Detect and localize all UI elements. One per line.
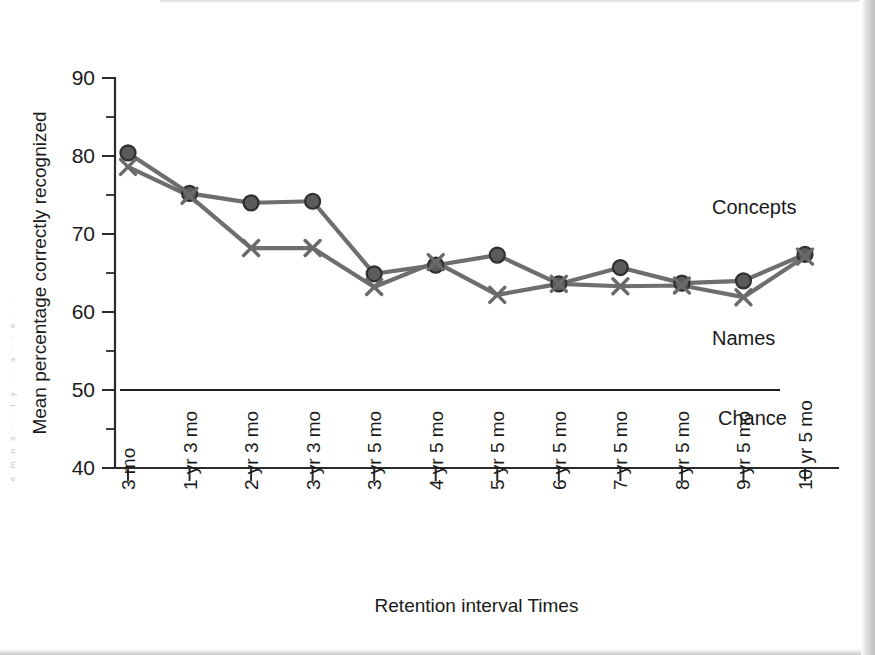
data-point-concepts xyxy=(736,273,751,288)
x-tick-label: 3 yr 3 mo xyxy=(303,411,324,490)
x-tick-label: 2 yr 3 mo xyxy=(241,411,262,490)
chance-label: Chance xyxy=(718,407,787,429)
data-point-concepts xyxy=(490,248,505,263)
data-series xyxy=(121,145,813,304)
x-tick-label: 7 yr 5 mo xyxy=(610,411,631,490)
x-tick-label: 5 yr 5 mo xyxy=(487,411,508,490)
retention-interval-chart: 405060708090 3 mo1 yr 3 mo2 yr 3 mo3 yr … xyxy=(0,0,875,655)
data-point-concepts xyxy=(244,195,259,210)
data-point-concepts xyxy=(305,194,320,209)
x-tick-label: 6 yr 5 mo xyxy=(549,411,570,490)
chart-canvas: 405060708090 3 mo1 yr 3 mo2 yr 3 mo3 yr … xyxy=(0,0,875,655)
series-label-names: Names xyxy=(712,327,775,349)
y-axis-title: Mean percentage correctly recognized xyxy=(29,111,50,434)
y-tick-label: 40 xyxy=(72,456,95,479)
x-tick-label: 8 yr 5 mo xyxy=(672,411,693,490)
y-tick-label: 60 xyxy=(72,300,95,323)
data-point-concepts xyxy=(613,260,628,275)
x-tick-label: 3 mo xyxy=(118,448,139,490)
y-tick-label: 70 xyxy=(72,222,95,245)
y-tick-label: 80 xyxy=(72,144,95,167)
scanned-page: e m n o · · l y · · a · · e · · 40506070… xyxy=(0,0,875,655)
x-tick-label: 3 yr 5 mo xyxy=(364,411,385,490)
x-tick-label: 10 yr 5 mo xyxy=(795,400,816,490)
series-line-concepts xyxy=(128,153,805,284)
x-axis-title: Retention interval Times xyxy=(375,595,579,616)
y-axis: 405060708090 xyxy=(72,66,115,479)
series-line-names xyxy=(128,167,805,297)
data-point-concepts xyxy=(121,145,136,160)
series-label-concepts: Concepts xyxy=(712,196,797,218)
y-tick-label: 50 xyxy=(72,378,95,401)
x-tick-label: 4 yr 5 mo xyxy=(426,411,447,490)
x-tick-label: 1 yr 3 mo xyxy=(180,411,201,490)
chart-text-labels: Retention interval TimesMean percentage … xyxy=(29,111,797,616)
y-tick-label: 90 xyxy=(72,66,95,89)
data-point-concepts xyxy=(367,266,382,281)
